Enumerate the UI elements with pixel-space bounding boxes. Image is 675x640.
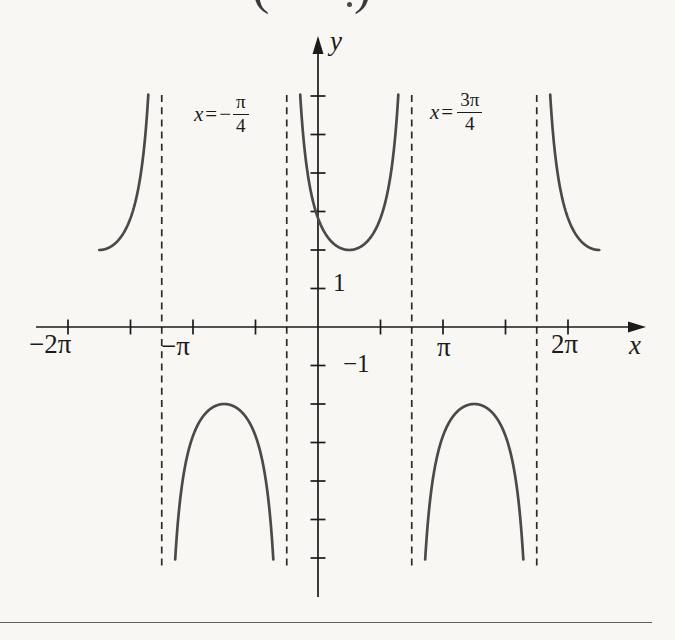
asymptote-label-3pi-4: x = 3π 4 [430, 90, 482, 134]
x-tick-label-pi: π [437, 333, 451, 361]
x-tick-label-2pi: 2π [551, 330, 578, 358]
y-tick-label-neg-1: −1 [343, 351, 370, 377]
x-tick-label-neg-pi: −π [161, 332, 190, 360]
fraction-numerator: 3π [457, 90, 482, 113]
x-tick-label-neg-2pi: −2π [29, 330, 71, 358]
y-axis-label: y [330, 27, 342, 55]
fraction-denominator: 4 [233, 115, 249, 137]
y-tick-label-1: 1 [333, 270, 346, 296]
equals-sign: = [205, 104, 217, 125]
x-axis-label: x [629, 331, 641, 359]
asymptote-lhs: x [430, 102, 439, 123]
fraction-numerator: π [233, 92, 249, 115]
minus-sign: − [219, 104, 231, 125]
fraction-pi-over-4: π 4 [233, 92, 249, 136]
asymptote-label-neg-pi-4: x = − π 4 [194, 92, 249, 136]
equals-sign: = [441, 102, 453, 123]
fraction-3pi-over-4: 3π 4 [457, 90, 482, 134]
secant-graph-figure: ( ) y x 1 −1 −2π −π π 2π x = − π 4 x = 3… [0, 0, 675, 640]
graph-canvas [0, 0, 675, 640]
bottom-rule [0, 622, 652, 623]
fraction-denominator: 4 [457, 113, 482, 135]
asymptote-lhs: x [194, 104, 203, 125]
